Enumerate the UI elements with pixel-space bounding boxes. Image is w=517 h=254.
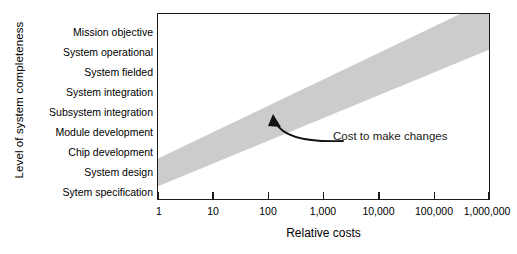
x-tick-label-1: 1 [156, 205, 162, 217]
y-tick-label-sytem-specification: Sytem specification [20, 186, 153, 198]
x-tick-mark-100000 [434, 192, 436, 200]
plot-area [157, 13, 490, 200]
y-axis-tick-label-group: Mission objective System operational Sys… [20, 14, 153, 194]
x-tick-mark-10 [212, 192, 214, 200]
cost-band-shape [158, 14, 489, 199]
y-tick-label-subsystem-integration: Subsystem integration [20, 106, 153, 118]
x-tick-label-1000: 1,000 [310, 205, 336, 217]
y-tick-label-system-fielded: System fielded [20, 66, 153, 78]
x-tick-mark-1000 [323, 192, 325, 200]
x-tick-mark-10000 [378, 192, 380, 200]
x-tick-mark-100 [268, 192, 270, 200]
y-tick-label-chip-development: Chip development [20, 146, 153, 158]
y-tick-label-system-design: System design [20, 166, 153, 178]
chart-container: Level of system completeness Mission obj… [0, 0, 517, 254]
y-tick-label-module-development: Module development [20, 126, 153, 138]
x-tick-label-1000000: 1,000,000 [464, 205, 511, 217]
y-tick-label-mission-objective: Mission objective [20, 26, 153, 38]
x-tick-label-10000: 10,000 [362, 205, 394, 217]
x-tick-mark-1 [157, 192, 159, 200]
y-tick-label-system-integration: System integration [20, 86, 153, 98]
cost-band-polygon [158, 14, 489, 186]
x-axis-title: Relative costs [157, 226, 490, 240]
x-tick-label-10: 10 [207, 205, 219, 217]
x-tick-label-100000: 100,000 [415, 205, 453, 217]
y-tick-label-system-operational: System operational [20, 46, 153, 58]
x-tick-label-100: 100 [259, 205, 277, 217]
x-tick-mark-1000000 [488, 192, 490, 200]
x-axis-tick-label-group: 1 10 100 1,000 10,000 100,000 1,000,000 [157, 205, 490, 219]
x-axis-tick-group [157, 190, 490, 200]
